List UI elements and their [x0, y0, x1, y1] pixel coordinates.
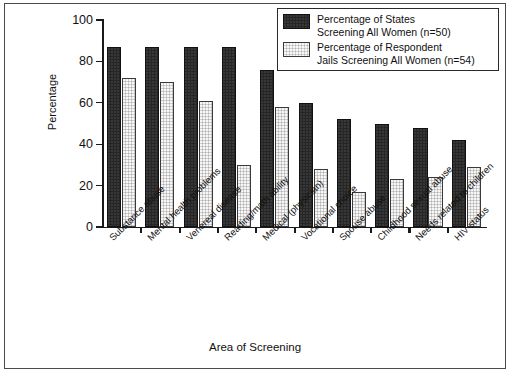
legend-label-jails: Percentage of Respondent Jails Screening… — [317, 41, 475, 66]
y-axis-tick-label: 0 — [86, 221, 93, 234]
x-axis-tick — [370, 227, 372, 233]
x-axis-tick — [332, 227, 334, 233]
y-axis-tick-label: 80 — [79, 55, 93, 68]
legend-label-states-line1: Percentage of States — [317, 13, 451, 26]
y-axis-title: Percentage — [46, 42, 58, 162]
y-axis-tick — [96, 61, 103, 62]
legend-item-states: Percentage of States Screening All Women… — [283, 13, 493, 38]
bar — [122, 78, 136, 227]
x-axis-tick — [217, 227, 219, 233]
x-axis-tick — [408, 227, 410, 233]
x-axis-tick — [179, 227, 181, 233]
bar-group — [103, 20, 141, 227]
bar — [107, 47, 121, 227]
legend-label-states-line2: Screening All Women (n=50) — [317, 26, 451, 39]
legend-swatch-jails — [283, 42, 310, 57]
y-axis-tick — [96, 185, 103, 186]
chart-figure: 020406080100 Percentage Substance abuseM… — [0, 0, 510, 376]
legend-swatch-states — [283, 14, 310, 29]
bar — [375, 124, 389, 228]
x-axis-tick — [294, 227, 296, 233]
y-axis-tick — [96, 226, 103, 227]
legend-label-jails-line2: Jails Screening All Women (n=54) — [317, 54, 475, 67]
x-axis-tick — [140, 227, 142, 233]
legend-label-states: Percentage of States Screening All Women… — [317, 13, 451, 38]
y-axis-tick — [96, 144, 103, 145]
legend-item-jails: Percentage of Respondent Jails Screening… — [283, 41, 493, 66]
bar — [413, 128, 427, 227]
y-axis-tick-label: 40 — [79, 138, 93, 151]
y-axis-tick-label: 60 — [79, 97, 93, 110]
legend-label-jails-line1: Percentage of Respondent — [317, 41, 475, 54]
bar — [337, 119, 351, 227]
bar — [160, 82, 174, 227]
y-axis-tick — [96, 19, 103, 20]
y-axis-tick — [96, 102, 103, 103]
x-axis-title: Area of Screening — [0, 341, 510, 353]
y-axis-tick-label: 100 — [72, 14, 93, 27]
y-axis-tick-label: 20 — [79, 180, 93, 193]
x-axis-tick — [447, 227, 449, 233]
legend: Percentage of States Screening All Women… — [277, 8, 499, 71]
x-axis-tick — [255, 227, 257, 233]
